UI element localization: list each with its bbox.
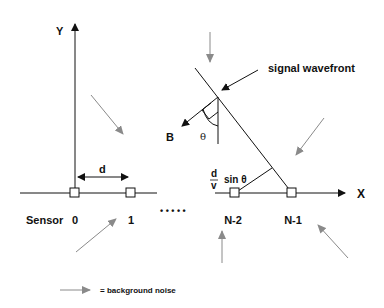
sensor-0 <box>70 188 79 197</box>
sensor-n-1-label: N-1 <box>284 214 302 226</box>
y-axis: Y <box>56 24 75 193</box>
sensor-array: Sensor 0 1 • • • • • N-2 N-1 <box>26 188 302 226</box>
ellipsis: • • • • • <box>160 206 186 216</box>
sensor-0-label: 0 <box>72 214 78 226</box>
sensor-label: Sensor <box>26 214 64 226</box>
sensor-1-label: 1 <box>128 214 134 226</box>
noise-arrow-icon <box>318 225 348 258</box>
y-axis-label: Y <box>56 25 64 37</box>
legend-text: = background noise <box>100 286 176 295</box>
bearing-label: B <box>166 131 174 143</box>
sensor-1 <box>126 188 135 197</box>
delay-label: d v sin θ <box>210 168 247 191</box>
legend: = background noise <box>60 286 176 295</box>
sensor-n-1 <box>287 188 296 197</box>
sensor-n-2 <box>230 188 239 197</box>
x-axis-label: X <box>357 187 365 201</box>
sensor-spacing: d <box>78 163 128 177</box>
svg-text:d: d <box>211 168 217 179</box>
angle-label: θ <box>200 131 206 142</box>
spacing-label: d <box>99 163 106 175</box>
diagram-canvas: Y X d θ B signal wavefront d v sin θ <box>0 0 384 308</box>
svg-text:v: v <box>211 180 217 191</box>
wavefront-label: signal wavefront <box>268 62 355 74</box>
sensor-n-2-label: N-2 <box>224 214 242 226</box>
noise-arrow-icon <box>296 118 324 155</box>
svg-text:sin θ: sin θ <box>224 174 247 185</box>
noise-arrow-icon <box>76 219 116 252</box>
noise-arrow-icon <box>91 95 123 134</box>
signal-wavefront: θ B signal wavefront <box>166 62 355 193</box>
